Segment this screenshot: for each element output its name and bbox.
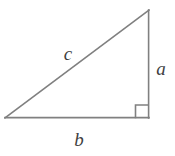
triangle-drawing	[0, 0, 175, 156]
horizontal-leg-label: b	[74, 130, 84, 149]
hypotenuse-label: c	[64, 44, 72, 63]
vertical-leg-label: a	[156, 59, 166, 78]
right-triangle-figure: c a b	[0, 0, 175, 156]
right-angle-square-icon	[136, 105, 149, 118]
hypotenuse-line-c	[5, 10, 149, 118]
